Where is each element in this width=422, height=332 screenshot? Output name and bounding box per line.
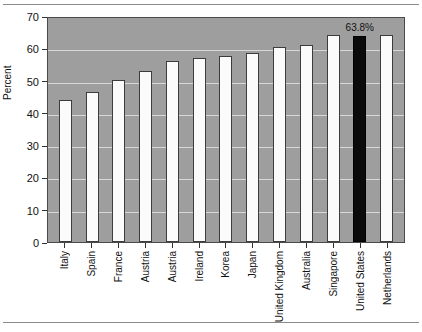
x-axis-tick-label: Spain [86,251,97,277]
x-axis-tick-group: Ireland [186,243,213,331]
y-axis-tick: 10 [27,205,47,217]
bar-slot [239,18,266,242]
bar[interactable] [139,71,152,242]
x-axis-tick-mark [199,243,200,248]
x-axis-tick-label: France [113,251,124,282]
bar[interactable] [327,35,340,242]
x-axis-tick-label: Italy [59,251,70,269]
bar[interactable] [219,56,232,242]
bar[interactable] [246,53,259,242]
x-axis-tick-group: Italy [51,243,78,331]
y-axis-tick-label: 30 [27,140,42,152]
x-axis-tick-group: United Kingdom [266,243,293,331]
y-axis-tick-label: 10 [27,205,42,217]
bar[interactable] [273,47,286,242]
top-divider-rule [3,4,419,5]
bar[interactable] [300,45,313,242]
x-axis-tick-label: Austria [167,251,178,282]
x-axis-tick-group: Korea [213,243,240,331]
x-axis-tick-mark [64,243,65,248]
y-axis-tick: 0 [33,237,47,249]
y-axis-tick-label: 50 [27,76,42,88]
y-axis-tick-label: 60 [27,43,42,55]
bar-slot [132,18,159,242]
bar-slot [320,18,347,242]
x-axis-tick-mark [279,243,280,248]
bar[interactable] [112,80,125,242]
x-axis-tick-mark [333,243,334,248]
bar-chart-figure: Percent 010203040506070 63.8% ItalySpain… [0,0,422,332]
bar[interactable] [86,92,99,242]
x-axis-tick-group: Austria [159,243,186,331]
y-axis-tick: 50 [27,76,47,88]
plot-area: 63.8% [47,17,405,243]
y-axis-tick: 70 [27,11,47,23]
x-axis-tick-mark [252,243,253,248]
y-axis-tick: 40 [27,108,47,120]
x-axis-tick-label: United States [355,251,366,311]
bar-slot [186,18,213,242]
x-axis-tick-label: Austria [140,251,151,282]
x-axis-tick-group: Spain [78,243,105,331]
y-axis-tick-label: 0 [33,237,42,249]
bar-slot [373,18,400,242]
y-axis-tick: 20 [27,172,47,184]
bar-slot [106,18,133,242]
x-axis-tick-group: Japan [239,243,266,331]
bar-slot: 63.8% [346,18,373,242]
x-axis-tick-mark [172,243,173,248]
x-axis-tick-mark [91,243,92,248]
bar-slot [79,18,106,242]
x-axis-tick-mark [360,243,361,248]
bar-slot [159,18,186,242]
x-axis-tick-group: United States [347,243,374,331]
x-axis-tick-label: Singapore [328,251,339,297]
x-axis-tick-mark [387,243,388,248]
x-axis-tick-label: Ireland [194,251,205,282]
bar-slot [213,18,240,242]
x-axis-tick-label: Netherlands [382,251,393,305]
x-axis-tick-group: Austria [132,243,159,331]
bar[interactable] [166,61,179,242]
bar[interactable] [193,58,206,242]
bar[interactable] [353,36,366,242]
x-axis-tick-label: Korea [220,251,231,278]
y-axis-tick-label: 40 [27,108,42,120]
x-axis-tick-mark [225,243,226,248]
x-axis-tick-group: Australia [293,243,320,331]
bar[interactable] [380,35,393,242]
x-axis-tick-mark [306,243,307,248]
x-axis: ItalySpainFranceAustriaAustriaIrelandKor… [47,243,405,331]
x-axis-tick-group: France [105,243,132,331]
y-axis-tick-label: 20 [27,172,42,184]
bar-slot [52,18,79,242]
bar[interactable] [59,100,72,242]
x-axis-tick-label: Australia [301,251,312,290]
x-axis-tick-mark [145,243,146,248]
x-axis-tick-label: United Kingdom [274,251,285,322]
y-axis-tick: 30 [27,140,47,152]
y-axis: 010203040506070 [0,17,47,243]
y-axis-tick-label: 70 [27,11,42,23]
bar-slot [266,18,293,242]
x-axis-tick-mark [118,243,119,248]
bar-value-label: 63.8% [346,22,374,33]
x-axis-tick-group: Singapore [320,243,347,331]
bar-series: 63.8% [48,18,404,242]
x-axis-tick-label: Japan [247,251,258,278]
bar-slot [293,18,320,242]
x-axis-tick-group: Netherlands [374,243,401,331]
y-axis-tick: 60 [27,43,47,55]
